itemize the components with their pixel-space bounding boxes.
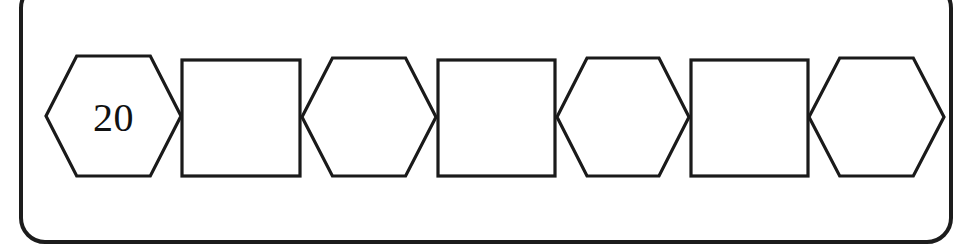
- hexagon-outline: [302, 58, 436, 176]
- square-outline: [182, 60, 300, 176]
- worksheet-page: 20: [0, 0, 965, 251]
- sequence-shape-4-square[interactable]: [436, 58, 557, 178]
- hexagon-outline: [557, 58, 689, 176]
- shape-sequence-chain: 20: [0, 0, 965, 251]
- square-outline: [691, 60, 808, 176]
- sequence-shape-3-hexagon[interactable]: [300, 56, 438, 178]
- hexagon-outline: [809, 58, 944, 176]
- sequence-shape-6-square[interactable]: [689, 58, 810, 178]
- square-outline: [438, 60, 555, 176]
- sequence-shape-7-hexagon[interactable]: [807, 56, 946, 178]
- shape-1-value: 20: [93, 95, 134, 140]
- sequence-shape-5-hexagon[interactable]: [555, 56, 691, 178]
- sequence-shape-2-square[interactable]: [180, 58, 302, 178]
- sequence-shape-1-hexagon[interactable]: 20: [44, 54, 183, 178]
